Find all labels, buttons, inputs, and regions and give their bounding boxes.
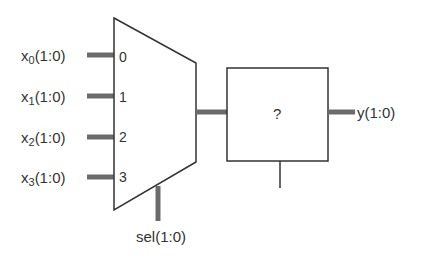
- mux-port-3: 3: [119, 169, 127, 185]
- input-label-2: x2(1:0): [21, 129, 65, 148]
- input-label-1: x1(1:0): [21, 88, 65, 107]
- mux-port-2: 2: [119, 129, 127, 145]
- mux-port-0: 0: [119, 49, 127, 65]
- input-label-0: x0(1:0): [21, 47, 65, 66]
- output-label: y(1:0): [357, 104, 395, 121]
- select-label: sel(1:0): [136, 228, 186, 245]
- mux-port-1: 1: [119, 89, 127, 105]
- unknown-block-label: ?: [273, 105, 281, 122]
- input-label-3: x3(1:0): [21, 169, 65, 188]
- mux-diagram: x0(1:0) x1(1:0) x2(1:0) x3(1:0) 0 1 2 3 …: [0, 0, 429, 263]
